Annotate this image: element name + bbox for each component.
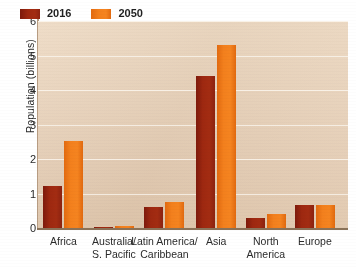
bar-2016-asia <box>196 76 215 228</box>
bar-2050-latin-america <box>165 202 184 228</box>
population-bar-chart-figure: Population (billions) 0123456 20162050 A… <box>0 0 356 267</box>
bar-2016-africa <box>43 186 62 228</box>
bar-group-6 <box>295 21 335 228</box>
bar-2050-asia <box>217 45 236 228</box>
legend-swatch-2050 <box>91 9 111 19</box>
bar-group-1 <box>43 21 83 228</box>
legend-entry-2016: 2016 <box>20 8 71 19</box>
legend-swatch-2016 <box>20 9 40 19</box>
bar-2016-north-america <box>246 218 265 228</box>
plot-area <box>38 21 348 228</box>
bar-2016-latin-america <box>144 207 163 228</box>
bar-group-5 <box>246 21 286 228</box>
bar-group-3 <box>144 21 184 228</box>
bar-group-4 <box>196 21 236 228</box>
x-axis-label-group: AfricaAustralia/S. PacificLatin America/… <box>0 232 356 267</box>
y-axis-tick-label: 1 <box>30 188 36 199</box>
bar-2050-africa <box>64 141 83 228</box>
bar-2016-europe <box>295 205 314 228</box>
x-axis-line <box>37 228 348 230</box>
bar-2050-north-america <box>267 214 286 228</box>
y-axis-tick-group: 0123456 <box>0 0 42 267</box>
bar-group <box>38 21 348 228</box>
bar-group-2 <box>94 21 134 228</box>
y-axis-tick-label: 3 <box>30 119 36 130</box>
x-axis-label-6: Europe <box>277 235 353 248</box>
chart-legend: 20162050 <box>20 8 143 19</box>
y-axis-tick-label: 5 <box>30 50 36 61</box>
legend-label-2016: 2016 <box>47 8 71 19</box>
bar-2050-europe <box>316 205 335 228</box>
legend-label-2050: 2050 <box>118 8 142 19</box>
y-axis-tick-label: 4 <box>30 85 36 96</box>
x-axis-label-line: Europe <box>277 235 353 248</box>
x-axis-label-line: Caribbean <box>126 248 202 261</box>
y-axis-tick-label: 2 <box>30 154 36 165</box>
x-axis-label-line: America <box>228 248 304 261</box>
legend-entry-2050: 2050 <box>91 8 142 19</box>
